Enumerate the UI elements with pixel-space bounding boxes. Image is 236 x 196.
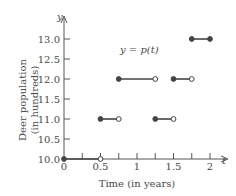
step-segments [62, 37, 213, 162]
y-axis-title-line2: (in hundreds) [29, 66, 40, 135]
open-dot-icon [153, 77, 158, 82]
y-tick-label: 13.0 [38, 34, 60, 45]
closed-dot-icon [62, 157, 67, 162]
axes [61, 16, 228, 162]
y-tick-label: 10.5 [38, 134, 60, 145]
x-axis-title: Time (in years) [99, 178, 176, 189]
x-tick-label: 1 [134, 161, 140, 172]
open-dot-icon [171, 117, 176, 122]
x-tick-label: 2 [207, 161, 213, 172]
y-axis-variable: y [56, 11, 63, 22]
y-tick-label: 11.5 [38, 94, 60, 105]
x-tick-label: 1.5 [166, 161, 182, 172]
x-tick-label: 0 [61, 161, 67, 172]
closed-dot-icon [189, 37, 194, 42]
y-tick-label: 12.5 [38, 54, 60, 65]
closed-dot-icon [208, 37, 213, 42]
closed-dot-icon [98, 117, 103, 122]
y-axis-title-line1: Deer population [17, 58, 28, 140]
closed-dot-icon [153, 117, 158, 122]
x-axis-variable: t [222, 155, 227, 166]
y-tick-label: 12.0 [38, 74, 60, 85]
open-dot-icon [189, 77, 194, 82]
x-tick-label: 0.5 [93, 161, 109, 172]
y-tick-label: 11.0 [38, 114, 60, 125]
function-label: y = p(t) [119, 44, 159, 55]
closed-dot-icon [171, 77, 176, 82]
y-tick-label: 10.0 [38, 154, 60, 165]
open-dot-icon [116, 117, 121, 122]
closed-dot-icon [116, 77, 121, 82]
open-dot-icon [98, 157, 103, 162]
step-function-chart: 10.010.511.011.512.012.513.000.511.52 y … [0, 0, 236, 196]
